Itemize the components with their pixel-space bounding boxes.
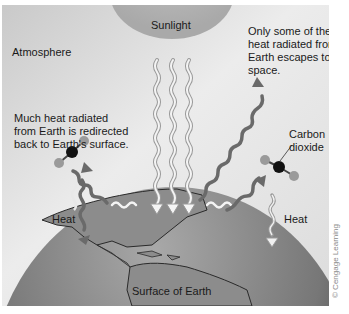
oxygen-atom bbox=[54, 158, 64, 168]
carbon-atom bbox=[273, 161, 285, 173]
heat-label-left: Heat bbox=[52, 213, 75, 226]
escapes-label: Only some of the heat radiated from Eart… bbox=[248, 25, 329, 77]
oxygen-atom bbox=[289, 171, 299, 181]
carbon-dioxide-label: Carbon dioxide bbox=[289, 128, 325, 154]
redirected-label: Much heat radiated from Earth is redirec… bbox=[14, 112, 129, 151]
surface-of-earth-label: Surface of Earth bbox=[132, 285, 212, 298]
atmosphere-label: Atmosphere bbox=[12, 46, 71, 59]
oxygen-atom bbox=[260, 155, 270, 165]
sunlight-label: Sunlight bbox=[151, 19, 191, 32]
heat-label-right: Heat bbox=[284, 213, 307, 226]
copyright-credit: © Cengage Learning bbox=[331, 224, 340, 298]
greenhouse-diagram: Sunlight Atmosphere Only some of the hea… bbox=[2, 5, 329, 306]
